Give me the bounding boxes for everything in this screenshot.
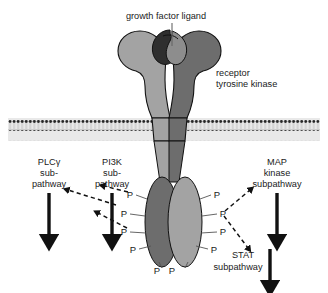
pathway-plcg-label-line-2: sub- [40, 168, 58, 178]
pathway-stat-label-line-2: subpathway [213, 262, 262, 272]
pathway-plcg-label-line-3: pathway [32, 179, 67, 189]
receptor-label-line-2: tyrosine kinase [216, 79, 277, 89]
phosphate-label: P [121, 208, 127, 219]
pathway-pi3k-label-line-1: PI3K [102, 157, 123, 167]
receptor-left-transmembrane [152, 118, 170, 141]
pathway-stat-label-line-1: STAT [232, 250, 255, 260]
phosphate-label: P [127, 189, 133, 200]
phosphate-label: P [130, 244, 136, 255]
signaling-diagram: growth factor ligand receptor tyrosine k… [0, 0, 328, 293]
phosphate-label: P [154, 265, 160, 276]
phosphate-label: P [220, 226, 226, 237]
pathway-map-kinase-label-line-2: kinase [264, 168, 291, 178]
pathway-pi3k-label-line-2: sub- [103, 168, 121, 178]
pathway-map-kinase-label-line-3: subpathway [252, 179, 301, 189]
phosphate-label: P [169, 265, 175, 276]
kinase-domain-right [168, 177, 202, 267]
growth-factor-ligand-label: growth factor ligand [126, 11, 206, 21]
kinase-domains [145, 177, 202, 267]
receptor-label-line-1: receptor [216, 68, 250, 78]
pathway-plcg-label-line-1: PLCγ [38, 157, 61, 167]
phosphate-label: P [211, 244, 217, 255]
phosphate-label: P [214, 189, 220, 200]
receptor-right-transmembrane [169, 118, 187, 141]
diagram-canvas: growth factor ligand receptor tyrosine k… [0, 0, 328, 293]
pathway-map-kinase-label-line-1: MAP [267, 157, 287, 167]
